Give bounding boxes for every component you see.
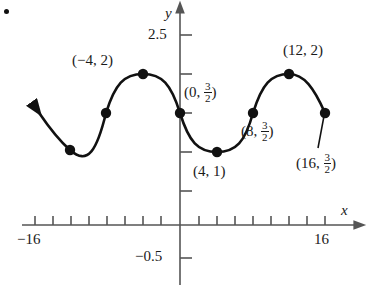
point-marker — [284, 69, 294, 79]
fraction-denominator: 2 — [324, 164, 332, 175]
point-label-prefix: (16, — [296, 155, 324, 171]
y-axis-name: y — [165, 6, 172, 21]
x-axis-name: x — [341, 203, 348, 218]
point-label-8-three-halves: (8, 32) — [241, 121, 274, 144]
x-tick-label-16: 16 — [314, 232, 329, 247]
point-marker — [101, 108, 111, 118]
fraction-denominator: 2 — [204, 93, 212, 104]
y-tick-label-2-5: 2.5 — [148, 27, 167, 42]
x-tick-label-neg-16: −16 — [17, 232, 40, 247]
fraction-three-halves: 32 — [204, 81, 212, 104]
fraction-three-halves: 32 — [324, 152, 332, 175]
fraction-three-halves: 32 — [261, 120, 269, 143]
point-label-suffix: ) — [212, 84, 217, 100]
point-marker — [212, 147, 222, 157]
leader-line-16 — [318, 116, 324, 148]
y-tick-label-neg-0-5: −0.5 — [135, 249, 162, 264]
point-label-suffix: ) — [269, 123, 274, 139]
point-label-16-three-halves: (16, 32) — [296, 153, 336, 176]
y-axis — [180, 12, 192, 285]
point-marker — [175, 108, 185, 118]
point-marker — [138, 69, 148, 79]
graph-figure: y x 2.5 −0.5 −16 16 (−4, 2) (0, 32) (4, … — [0, 0, 373, 292]
x-axis — [22, 216, 355, 225]
point-label-suffix: ) — [331, 155, 336, 171]
point-label-0-three-halves: (0, 32) — [184, 82, 217, 105]
point-marker — [248, 108, 258, 118]
fraction-denominator: 2 — [261, 132, 269, 143]
point-marker — [320, 108, 330, 118]
point-label-prefix: (8, — [241, 123, 261, 139]
point-marker — [65, 145, 75, 155]
point-label-neg4-2: (−4, 2) — [72, 53, 113, 68]
point-label-prefix: (0, — [184, 84, 204, 100]
point-label-12-2: (12, 2) — [283, 43, 323, 58]
point-label-4-1: (4, 1) — [193, 164, 226, 179]
